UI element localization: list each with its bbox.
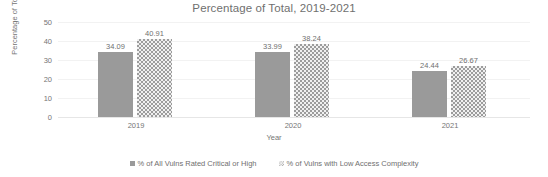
- plot-area: 34.09 40.91 33.99 38.24 24.44 26.67: [58, 22, 530, 117]
- data-label-2019-low-access-complexity: 40.91: [135, 29, 175, 38]
- bar-2020-critical-high[interactable]: [255, 52, 290, 117]
- x-axis-title: Year: [0, 133, 548, 142]
- y-tick-label-40: 40: [28, 38, 52, 46]
- x-tick-label-2021: 2021: [420, 121, 480, 130]
- legend-swatch-icon-low-access-complexity: [279, 161, 284, 166]
- y-tick-label-0: 0: [28, 114, 52, 122]
- legend-label-critical-high: % of All Vulns Rated Critical or High: [138, 159, 257, 168]
- bar-2019-critical-high[interactable]: [98, 52, 133, 117]
- y-tick-label-50: 50: [28, 19, 52, 27]
- bar-2020-low-access-complexity[interactable]: [294, 44, 329, 117]
- legend-swatch-icon-critical-high: [130, 161, 135, 166]
- gridline-50: [58, 22, 530, 23]
- chart-title: Percentage of Total, 2019-2021: [0, 2, 548, 14]
- data-label-2021-critical-high: 24.44: [410, 61, 450, 70]
- legend-item-critical-high[interactable]: % of All Vulns Rated Critical or High: [130, 159, 257, 168]
- y-tick-label-30: 30: [28, 57, 52, 65]
- y-tick-label-20: 20: [28, 76, 52, 84]
- bar-2021-low-access-complexity[interactable]: [451, 66, 486, 117]
- x-tick-label-2020: 2020: [263, 121, 323, 130]
- axis-baseline: [58, 117, 530, 118]
- y-tick-label-10: 10: [28, 95, 52, 103]
- legend-item-low-access-complexity[interactable]: % of Vulns with Low Access Complexity: [279, 159, 419, 168]
- x-tick-label-2019: 2019: [106, 121, 166, 130]
- legend-label-low-access-complexity: % of Vulns with Low Access Complexity: [287, 159, 419, 168]
- bar-2019-low-access-complexity[interactable]: [137, 39, 172, 117]
- data-label-2020-critical-high: 33.99: [253, 42, 293, 51]
- y-axis-title: Percentage of Total: [10, 0, 19, 63]
- data-label-2020-low-access-complexity: 38.24: [292, 34, 332, 43]
- data-label-2019-critical-high: 34.09: [96, 42, 136, 51]
- chart-legend: % of All Vulns Rated Critical or High % …: [0, 159, 548, 168]
- bar-2021-critical-high[interactable]: [412, 71, 447, 117]
- bar-chart: Percentage of Total, 2019-2021 Percentag…: [0, 0, 548, 177]
- data-label-2021-low-access-complexity: 26.67: [449, 56, 489, 65]
